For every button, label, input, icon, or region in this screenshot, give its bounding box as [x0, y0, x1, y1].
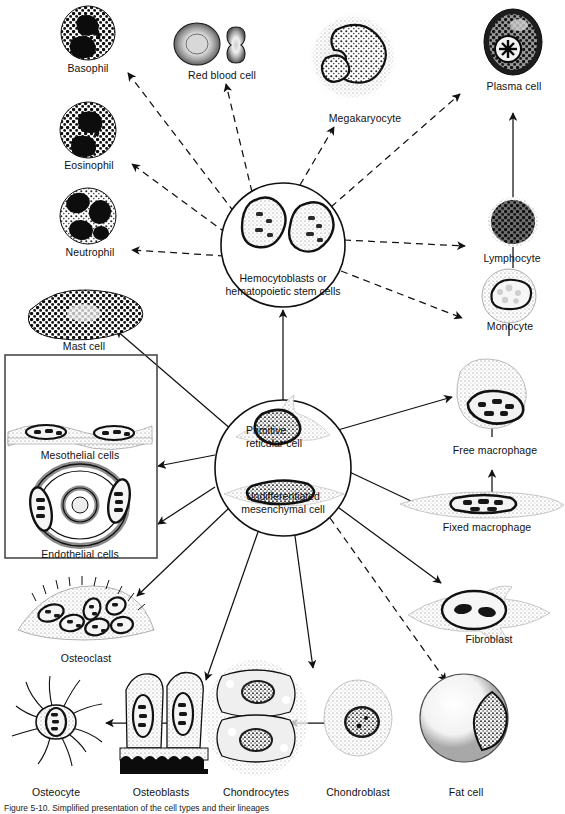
- art-endothelial-cells: [27, 464, 134, 546]
- hub-hemocytoblast-label: Hemocytoblasts or hematopoietic stem cel…: [208, 272, 358, 297]
- label-chondrocytes: Chondrocytes: [206, 786, 306, 798]
- label-red-blood-cell: Red blood cell: [167, 69, 277, 81]
- art-megakaryocyte: [306, 10, 400, 104]
- diagram-artwork: [0, 0, 565, 814]
- art-neutrophil: [60, 188, 116, 244]
- label-endothelial-cells: Endothelial cells: [18, 548, 142, 560]
- art-osteoclast: [18, 576, 154, 640]
- label-eosinophil: Eosinophil: [44, 159, 134, 171]
- label-lymphocyte: Lymphocyte: [464, 252, 560, 264]
- art-fat-cell: [420, 674, 508, 762]
- label-plasma-cell: Plasma cell: [468, 80, 560, 92]
- art-free-macrophage: [457, 359, 526, 429]
- art-lymphocyte: [488, 197, 538, 247]
- label-free-macrophage: Free macrophage: [434, 444, 556, 456]
- label-mast-cell: Mast cell: [40, 340, 128, 352]
- label-osteoblasts: Osteoblasts: [118, 786, 204, 798]
- art-chondrocytes: [204, 660, 308, 776]
- art-chondroblast: [324, 680, 392, 756]
- art-eosinophil: [60, 102, 116, 158]
- hub-primitive-reticular-label: Primitive reticular cell: [246, 424, 368, 449]
- figure-caption: Figure 5-10. Simplified presentation of …: [4, 803, 562, 814]
- label-basophil: Basophil: [48, 62, 128, 74]
- figure-canvas: Hemocytoblasts or hematopoietic stem cel…: [0, 0, 565, 814]
- art-monocyte: [482, 269, 536, 323]
- label-fibroblast: Fibroblast: [444, 633, 534, 645]
- art-basophil: [61, 6, 115, 60]
- label-mesothelial-cells: Mesothelial cells: [18, 449, 142, 461]
- label-megakaryocyte: Megakaryocyte: [310, 112, 420, 124]
- art-mesothelial-cells: [8, 424, 152, 449]
- art-red-blood-cell: [174, 23, 245, 65]
- label-osteocyte: Osteocyte: [14, 786, 98, 798]
- label-fixed-macrophage: Fixed macrophage: [424, 521, 550, 533]
- hub-mesenchymal-label: Undifferentiated mesenchymal cell: [208, 490, 358, 515]
- art-fixed-macrophage: [400, 492, 564, 518]
- label-chondroblast: Chondroblast: [308, 786, 408, 798]
- label-fat-cell: Fat cell: [428, 786, 504, 798]
- label-osteoclast: Osteoclast: [42, 652, 130, 664]
- art-osteocyte: [12, 676, 102, 766]
- art-plasma-cell: [484, 9, 542, 75]
- label-monocyte: Monocyte: [462, 320, 558, 332]
- label-neutrophil: Neutrophil: [46, 246, 134, 258]
- art-mast-cell: [28, 290, 142, 340]
